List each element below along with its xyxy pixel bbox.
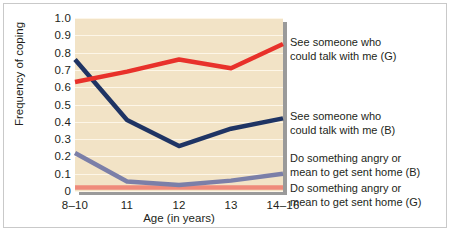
y-tick-label: 0.9 xyxy=(29,30,71,40)
y-tick-label: 0 xyxy=(29,186,71,196)
plot-area xyxy=(75,18,283,191)
legend-label-line2: mean to get sent home (B) xyxy=(290,166,446,180)
plot-shadow-right xyxy=(283,22,287,195)
legend-label-line2: could talk with me (G) xyxy=(290,50,446,64)
legend-entry-0: See someone who could talk with me (G) xyxy=(290,36,446,63)
y-tick-label: 0.8 xyxy=(29,48,71,58)
y-tick-label: 0.2 xyxy=(29,151,71,161)
y-axis-ticks: 1.00.90.80.70.60.50.40.30.20.10 xyxy=(27,0,71,232)
x-tick-label: 13 xyxy=(206,199,256,211)
y-axis-label: Frequency of coping xyxy=(13,19,25,129)
series-line xyxy=(75,44,283,82)
y-tick-label: 0.5 xyxy=(29,100,71,110)
legend-label-line1: Do something angry or xyxy=(290,152,446,166)
series-lines xyxy=(75,18,283,191)
y-tick-label: 0.7 xyxy=(29,65,71,75)
series-line xyxy=(75,60,283,147)
y-tick-label: 1.0 xyxy=(29,13,71,23)
y-tick-label: 0.4 xyxy=(29,117,71,127)
legend-label-line1: Do something angry or xyxy=(290,182,446,196)
x-axis-label: Age (in years) xyxy=(75,212,283,224)
legend-entry-1: See someone who could talk with me (B) xyxy=(290,110,446,137)
series-line xyxy=(75,153,283,185)
x-tick-label: 12 xyxy=(154,199,204,211)
y-tick-label: 0.6 xyxy=(29,82,71,92)
x-tick-label: 8–10 xyxy=(50,199,100,211)
gridline xyxy=(75,191,283,192)
y-tick-label: 0.1 xyxy=(29,169,71,179)
legend-label-line2: could talk with me (B) xyxy=(290,124,446,138)
legend-entry-3: Do something angry or mean to get sent h… xyxy=(290,182,446,209)
x-tick-label: 11 xyxy=(102,199,152,211)
legend-label-line2: mean to get sent home (G) xyxy=(290,196,446,210)
y-tick-label: 0.3 xyxy=(29,134,71,144)
legend-entry-2: Do something angry or mean to get sent h… xyxy=(290,152,446,179)
legend-label-line1: See someone who xyxy=(290,36,446,50)
legend-label-line1: See someone who xyxy=(290,110,446,124)
chart-figure: 1.00.90.80.70.60.50.40.30.20.10 Frequenc… xyxy=(0,0,451,232)
